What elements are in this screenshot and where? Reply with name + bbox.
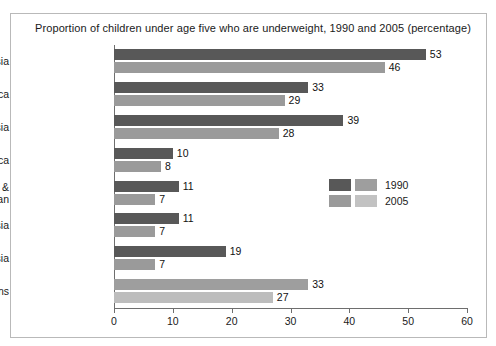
category-label: Eastern Asia [0, 252, 9, 264]
bar-value-label: 33 [312, 279, 324, 290]
x-tick-mark [291, 308, 292, 313]
bar-value-label: 39 [347, 115, 359, 126]
category-label: Sub-Saharan Africa [0, 88, 9, 100]
category-label-line: Western Asia [0, 219, 9, 231]
bar-value-label: 33 [312, 82, 324, 93]
category-label: Southern Asia [0, 55, 9, 67]
bar-2005 [114, 161, 161, 172]
bar-group: 3327 [114, 279, 467, 303]
bar-value-label: 7 [159, 194, 165, 205]
x-tick-label: 20 [226, 315, 238, 327]
bar-value-label: 19 [230, 246, 242, 257]
chart-title: Proportion of children under age five wh… [35, 22, 471, 34]
legend-label: 1990 [385, 179, 408, 191]
category-label: Developing regions [0, 285, 9, 297]
x-tick-label: 0 [111, 315, 117, 327]
bar-1990 [114, 82, 308, 93]
bar-group: 3928 [114, 115, 467, 139]
bar-2005 [114, 292, 273, 303]
bar-value-label: 53 [430, 49, 442, 60]
bar-value-label: 8 [165, 161, 171, 172]
bar-value-label: 11 [183, 213, 194, 224]
x-tick-label: 50 [402, 315, 414, 327]
category-label-line: Eastern Asia [0, 252, 9, 264]
x-tick-label: 10 [167, 315, 179, 327]
x-tick-mark [232, 308, 233, 313]
bar-value-label: 11 [183, 181, 194, 192]
category-label-line: Sub-Saharan Africa [0, 88, 9, 100]
legend-label: 2005 [385, 195, 408, 207]
bar-1990 [114, 148, 173, 159]
bar-group: 197 [114, 246, 467, 270]
category-label: South-Eastern Asia [0, 121, 9, 133]
bar-1990 [114, 246, 226, 257]
category-axis-labels: Southern AsiaSub-Saharan AfricaSouth-Eas… [0, 45, 9, 308]
category-label-line: Northern Africa [0, 154, 9, 166]
legend-swatch-primary [329, 179, 351, 191]
legend-swatch-primary [329, 195, 351, 207]
x-tick-mark [114, 308, 115, 313]
bar-2005 [114, 226, 155, 237]
x-tick-label: 30 [285, 315, 297, 327]
bar-1990 [114, 115, 343, 126]
bar-2005 [114, 259, 155, 270]
legend-swatch-secondary [355, 179, 377, 191]
bar-value-label: 28 [283, 128, 295, 139]
bar-value-label: 29 [289, 95, 301, 106]
category-label: Western Asia [0, 219, 9, 231]
category-label-line: South-Eastern Asia [0, 121, 9, 133]
x-tick-label: 60 [461, 315, 473, 327]
bar-2005 [114, 194, 155, 205]
category-label-line: the Caribbean [0, 193, 9, 205]
bar-group: 117 [114, 181, 467, 205]
x-tick-label: 40 [343, 315, 355, 327]
bar-1990 [114, 181, 179, 192]
chart-frame: Proportion of children under age five wh… [10, 13, 487, 338]
x-tick-mark [408, 308, 409, 313]
bar-2005 [114, 95, 285, 106]
bar-value-label: 46 [389, 62, 401, 73]
bar-value-label: 10 [177, 148, 189, 159]
category-label-line: Southern Asia [0, 55, 9, 67]
bar-value-label: 7 [159, 226, 165, 237]
bar-2005 [114, 128, 279, 139]
plot-area: 0102030405060 53463329392810811711719733… [114, 45, 467, 308]
bar-1990 [114, 49, 426, 60]
category-label: Latin America &the Caribbean [0, 181, 9, 205]
x-tick-mark [467, 308, 468, 313]
bar-group: 108 [114, 148, 467, 172]
bar-value-label: 7 [159, 259, 165, 270]
x-tick-mark [349, 308, 350, 313]
bar-2005 [114, 62, 385, 73]
category-label-line: Developing regions [0, 285, 9, 297]
bar-group: 117 [114, 213, 467, 237]
bar-1990 [114, 279, 308, 290]
category-label: Northern Africa [0, 154, 9, 166]
bar-group: 3329 [114, 82, 467, 106]
bar-value-label: 27 [277, 292, 289, 303]
bar-group: 5346 [114, 49, 467, 73]
bar-1990 [114, 213, 179, 224]
x-tick-mark [173, 308, 174, 313]
legend-swatch-secondary [355, 195, 377, 207]
category-label-line: Latin America & [0, 181, 9, 193]
